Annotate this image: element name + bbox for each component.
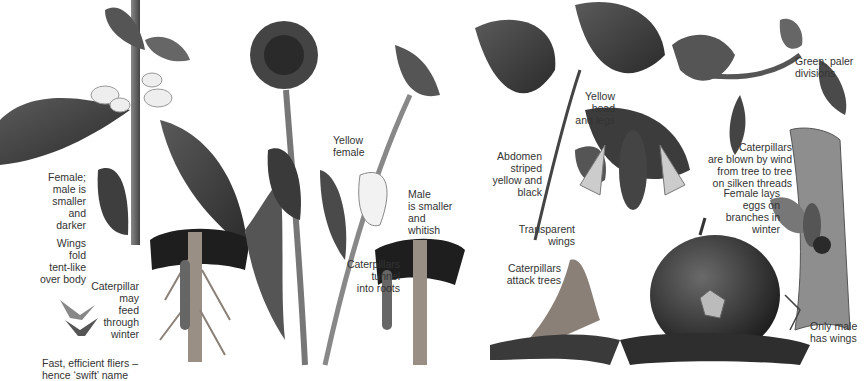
label-female-ghost-swift: Female; male is smaller and darker — [28, 171, 86, 231]
label-caterpillar-winter: Caterpillar may feed through winter — [84, 280, 139, 340]
label-wings-tent-like: Wings fold tent-like over body — [20, 237, 86, 285]
label-caterpillars-attack: Caterpillars attack trees — [495, 262, 561, 286]
label-fast-fliers: Fast, efficient fliers – hence ‘swift’ n… — [42, 357, 182, 381]
label-transparent-wings: Transparent wings — [505, 223, 575, 247]
label-caterpillars-wind: Caterpillars are blown by wind from tree… — [700, 141, 792, 189]
label-green-paler: Green; paler divisions — [795, 55, 864, 79]
label-caterpillars-tunnel: Caterpillars tunnel into roots — [330, 258, 400, 294]
natural-history-plate: Female; male is smaller and darker Wings… — [0, 0, 864, 381]
label-female-lays-eggs: Female lays eggs on branches in winter — [712, 187, 780, 235]
label-yellow-female: Yellow female — [333, 134, 393, 158]
label-only-male-wings: Only male has wings — [810, 320, 864, 344]
label-yellow-head: Yellow head and legs — [565, 90, 615, 126]
label-abdomen-striped: Abdomen striped yellow and black — [462, 150, 542, 198]
